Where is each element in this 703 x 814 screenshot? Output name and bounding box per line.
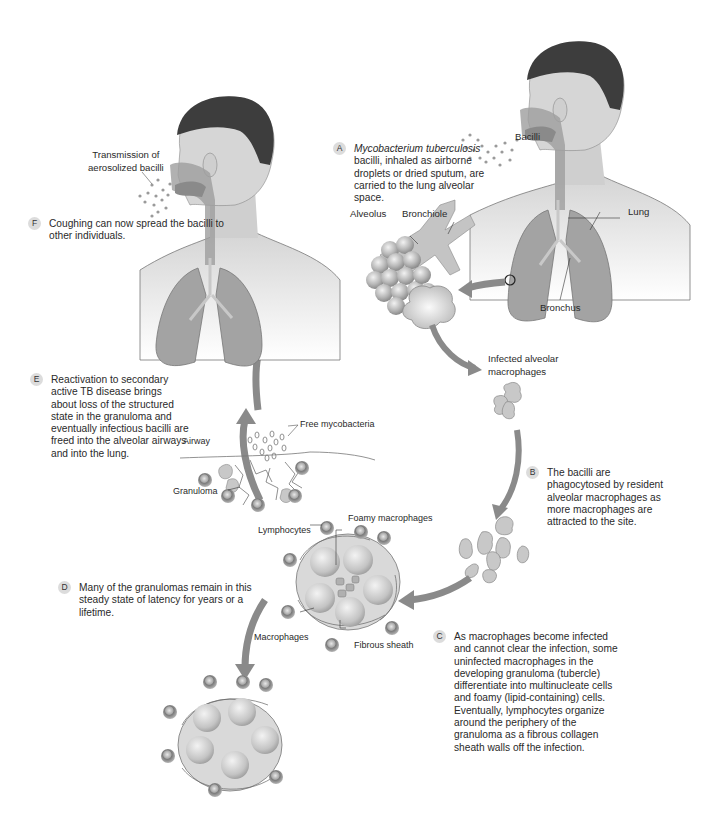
step-badge: F [28,217,41,230]
label-granuloma: Granuloma [173,486,218,497]
tb-lifecycle-diagram: Bacilli Alveolus Bronchiole Lung Bronchu… [0,0,703,814]
step-a: A Mycobacterium tuberculosis bacilli, in… [333,143,503,204]
latent-granuloma-illustration [161,675,283,797]
step-c: C As macrophages become infected and can… [433,631,623,754]
step-text: Reactivation to secondary active TB dise… [51,374,190,460]
step-badge: B [526,466,539,479]
step-d: D Many of the granulomas remain in this … [58,582,263,619]
label-macrophages: Macrophages [254,632,309,643]
step-text: The bacilli are phagocytosed by resident… [547,467,676,528]
recruited-macrophage-cells [459,517,529,583]
step-text: Coughing can now spread the bacilli to o… [49,218,228,243]
step-text: As macrophages become infected and canno… [454,631,623,754]
step-badge: E [30,373,43,386]
alveolus-cluster-illustration [366,200,475,329]
label-bronchus: Bronchus [540,302,581,313]
label-free-mycobacteria: Free mycobacteria [300,419,375,430]
step-f: F Coughing can now spread the bacilli to… [28,218,228,243]
step-badge: A [333,142,346,155]
label-alveolus: Alveolus [350,208,386,219]
label-lung: Lung [628,206,649,217]
infected-macrophage-cells [494,382,521,418]
label-foamy-macrophages: Foamy macrophages [348,513,433,524]
step-b: B The bacilli are phagocytosed by reside… [526,467,676,528]
step-badge: D [58,581,71,594]
label-bronchiole: Bronchiole [402,208,447,219]
step-text: Mycobacterium tuberculosis bacilli, inha… [354,143,503,204]
label-lymphocytes: Lymphocytes [258,525,311,536]
step-e: E Reactivation to secondary active TB di… [30,374,190,460]
label-fibrous-sheath: Fibrous sheath [354,640,414,651]
label-bacilli: Bacilli [515,131,540,142]
label-transmission: Transmission of aerosolized bacilli [88,149,164,174]
step-badge: C [433,630,446,643]
step-text: Many of the granulomas remain in this st… [79,582,263,619]
label-infected-alveolar-macrophages: Infected alveolar macrophages [488,352,558,378]
